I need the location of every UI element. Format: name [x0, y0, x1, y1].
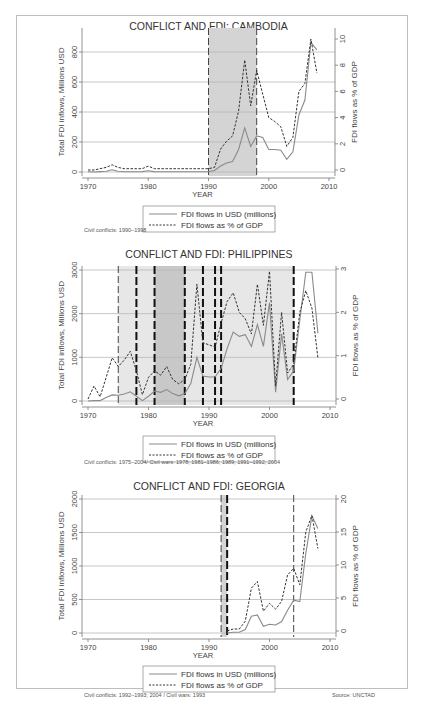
y-tick-label-right: 3: [339, 267, 348, 271]
y-axis-label-right: FDI flows as % of GDP: [351, 525, 360, 607]
x-tick-label: 2010: [322, 643, 339, 652]
civil-conflicts-note: Civil conflicts: 1975–2004/ Civil wars: …: [84, 459, 280, 465]
y-tick-label-right: 4: [338, 116, 347, 120]
y-tick-label-left: 500: [70, 593, 79, 606]
x-tick-label: 2000: [261, 643, 278, 652]
y-tick-label-right: 0: [338, 168, 347, 172]
y-tick-label-left: 200: [70, 136, 79, 149]
x-tick-label: 1970: [80, 411, 97, 420]
conflict-period-shading: [209, 28, 257, 176]
figure-canvas: CONFLICT AND FDI: CAMBODIA02004006008000…: [0, 0, 421, 723]
series-fdi-usd: [227, 516, 318, 633]
legend-label-usd: FDI flows in USD (millions): [181, 440, 276, 449]
x-tick-label: 2010: [321, 182, 338, 191]
y-axis-label-right: FDI flows as % of GDP: [350, 61, 359, 143]
civil-conflicts-note: Civil conflicts: 1990–1998: [84, 227, 146, 233]
x-tick-label: 1970: [80, 182, 97, 191]
y-axis-label-left: Total FDI inflows, Millions USD: [57, 47, 66, 156]
y-tick-label-right: 5: [339, 596, 348, 600]
y-tick-label-right: 6: [338, 89, 347, 93]
y-tick-label-right: 0: [339, 397, 348, 401]
y-tick-label-left: 2000: [70, 305, 79, 322]
x-tick-label: 1980: [140, 182, 157, 191]
legend-label-usd: FDI flows in USD (millions): [181, 670, 276, 679]
y-tick-label-left: 1000: [70, 558, 79, 575]
y-axis-label-left: Total FDI inflows, Millions USD: [57, 281, 66, 390]
x-axis-label: YEAR: [192, 190, 213, 199]
x-axis-label: YEAR: [193, 419, 214, 428]
y-tick-label-left: 400: [70, 106, 79, 119]
y-tick-label-right: 20: [339, 495, 348, 503]
civil-conflicts-note: Civil conflicts: 1992–1993; 2004 / Civil…: [84, 692, 205, 698]
y-tick-label-left: 2000: [70, 491, 79, 508]
y-tick-label-left: 1500: [70, 524, 79, 541]
x-tick-label: 1970: [80, 643, 97, 652]
x-tick-label: 2010: [322, 411, 339, 420]
series-fdi-gdp: [88, 39, 317, 170]
series-fdi-usd: [88, 42, 317, 172]
legend-label-gdp: FDI flows as % of GDP: [181, 221, 263, 230]
y-tick-label-left: 0: [70, 399, 79, 403]
y-tick-label-right: 1: [339, 354, 348, 358]
source-label: Source: UNCTAD: [332, 692, 375, 698]
y-axis-label-right: FDI flows as % of GDP: [351, 295, 360, 377]
y-tick-label-left: 800: [70, 46, 79, 59]
y-tick-label-right: 2: [339, 310, 348, 314]
y-tick-label-right: 2: [338, 142, 347, 146]
conflict-period-shading: [118, 266, 293, 405]
y-tick-label-left: 600: [70, 76, 79, 89]
legend-label-usd: FDI flows in USD (millions): [181, 210, 276, 219]
x-axis-label: YEAR: [193, 651, 214, 660]
legend-label-gdp: FDI flows as % of GDP: [181, 681, 263, 690]
y-tick-label-right: 10: [338, 35, 347, 43]
y-tick-label-right: 8: [338, 63, 347, 67]
x-tick-label: 2000: [261, 411, 278, 420]
chart-cambodia: CONFLICT AND FDI: CAMBODIA02004006008000…: [57, 20, 359, 233]
chart-philippines: CONFLICT AND FDI: PHILIPPINES01000200030…: [57, 248, 360, 465]
y-tick-label-left: 0: [70, 631, 79, 635]
y-tick-label-right: 10: [339, 561, 348, 569]
x-tick-label: 1980: [140, 643, 157, 652]
x-tick-label: 1980: [140, 411, 157, 420]
chart-title: CONFLICT AND FDI: PHILIPPINES: [125, 248, 292, 260]
y-axis-label-left: Total FDI inflows, Millions USD: [57, 511, 66, 620]
y-tick-label-left: 1000: [70, 349, 79, 366]
y-tick-label-right: 0: [339, 629, 348, 633]
y-tick-label-left: 0: [70, 170, 79, 174]
chart-title: CONFLICT AND FDI: GEORGIA: [133, 480, 285, 492]
chart-georgia: CONFLICT AND FDI: GEORGIA050010001500200…: [57, 480, 360, 698]
war-period-shading: [155, 266, 185, 405]
y-tick-label-right: 15: [339, 528, 348, 536]
y-tick-label-left: 3000: [70, 262, 79, 279]
x-tick-label: 2000: [260, 182, 277, 191]
